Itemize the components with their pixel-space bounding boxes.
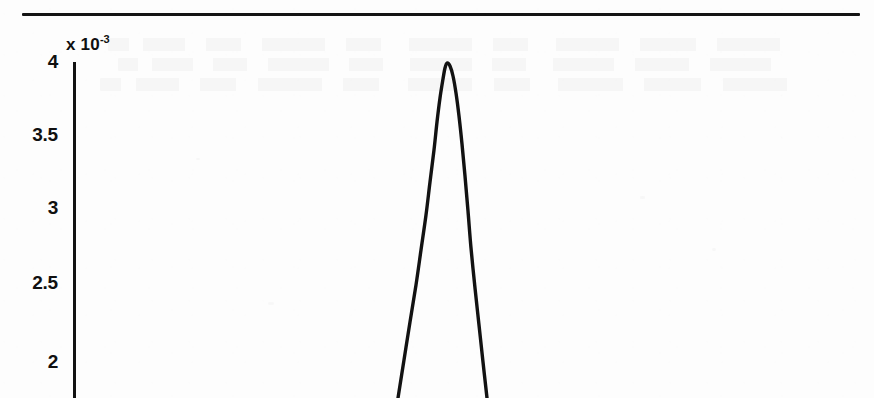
peak-curve bbox=[398, 63, 487, 398]
figure-page: x 10-3 4 3.5 3 2.5 2 bbox=[0, 0, 874, 398]
plot-area: x 10-3 4 3.5 3 2.5 2 bbox=[0, 0, 874, 398]
curve-svg bbox=[0, 0, 874, 398]
